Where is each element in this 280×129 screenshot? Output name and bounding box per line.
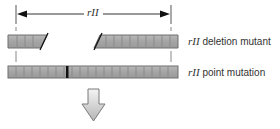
row-description: point mutation: [202, 67, 265, 78]
point-mutation-bar: [8, 66, 178, 78]
gene-name: rII: [188, 66, 200, 78]
point-mutation-label: rII point mutation: [188, 66, 265, 78]
mutation-mark: [66, 66, 69, 78]
arrowhead-left-icon: [17, 11, 27, 18]
arrowhead-right-icon: [160, 11, 170, 18]
row-description: deletion mutant: [202, 36, 270, 47]
gene-name: rII: [188, 35, 200, 47]
deletion-mutant-right-fragment: [94, 33, 178, 50]
down-arrow-icon: [82, 89, 105, 121]
span-label: rII: [84, 6, 102, 18]
deletion-mutant-label: rII deletion mutant: [188, 35, 271, 47]
deletion-mutant-left-fragment: [8, 33, 48, 50]
diagram-canvas: [0, 0, 280, 129]
